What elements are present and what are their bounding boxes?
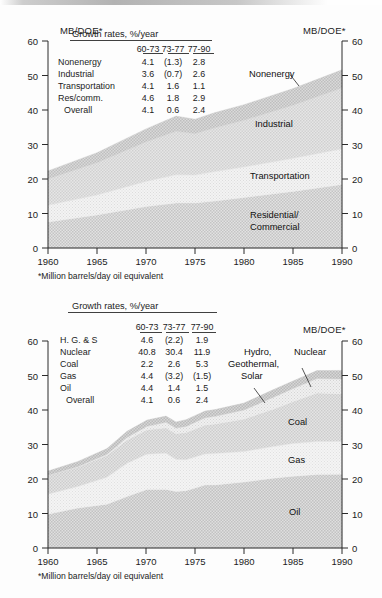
chart1-table-row-label-nonenergy: Nonenergy bbox=[58, 58, 101, 67]
chart1-band-label-industrial: Industrial bbox=[255, 120, 293, 129]
chart2-xtick-1980: 1980 bbox=[224, 557, 264, 567]
chart2-table-cell-coal-77-90: 5.3 bbox=[186, 360, 218, 369]
chart1-band-label-nonenergy: Nonenergy bbox=[249, 70, 294, 79]
chart2-xtick-1965: 1965 bbox=[77, 557, 117, 567]
chart1-ytick-right-10: 10 bbox=[352, 210, 363, 220]
chart2-left-ticks bbox=[42, 341, 48, 548]
chart2-ytick-left-20: 20 bbox=[10, 475, 38, 485]
chart1-ytick-right-20: 20 bbox=[352, 175, 363, 185]
chart2-ytick-left-0: 0 bbox=[10, 544, 38, 554]
chart1-footnote: *Million barrels/day oil equivalent bbox=[38, 272, 163, 281]
chart-energy-supply-by-source: MB/DOE* 0 10 20 30 40 50 60 0 10 20 30 4… bbox=[0, 290, 382, 598]
chart2-ytick-right-20: 20 bbox=[352, 475, 363, 485]
chart2-band-label-gas: Gas bbox=[288, 456, 305, 465]
chart2-table-cell-oil-77-90: 1.5 bbox=[186, 384, 218, 393]
chart1-band-label-residential: Residential/ bbox=[250, 211, 299, 220]
chart2-table-cell-overall-77-90: 2.4 bbox=[186, 396, 218, 405]
chart1-ytick-right-40: 40 bbox=[352, 106, 363, 116]
chart2-band-label-oil: Oil bbox=[289, 508, 300, 517]
chart2-ytick-right-50: 50 bbox=[352, 372, 363, 382]
chart1-table-cell-transportation-77-90: 1.1 bbox=[184, 82, 214, 91]
chart2-ytick-right-10: 10 bbox=[352, 510, 363, 520]
chart2-table-row-label-coal: Coal bbox=[60, 360, 78, 369]
chart1-table-cell-overall-77-90: 2.4 bbox=[184, 106, 214, 115]
chart1-ytick-right-50: 50 bbox=[352, 72, 363, 82]
chart2-ytick-right-60: 60 bbox=[352, 337, 363, 347]
chart1-table-cell-nonenergy-77-90: 2.8 bbox=[184, 58, 214, 67]
chart2-table-row-label-oil: Oil bbox=[60, 384, 71, 393]
chart2-xtick-1960: 1960 bbox=[28, 557, 68, 567]
chart2-table-row-label-gas: Gas bbox=[60, 372, 76, 381]
chart1-ytick-left-30: 30 bbox=[10, 141, 38, 151]
chart1-xtick-1965: 1965 bbox=[77, 257, 117, 267]
chart2-footnote: *Million barrels/day oil equivalent bbox=[38, 572, 163, 581]
figure-page: MB/DOE* MB/DOE* 0 10 20 30 40 50 60 0 10… bbox=[0, 0, 382, 598]
chart2-table-row-label-nuclear: Nuclear bbox=[60, 348, 91, 357]
chart1-xtick-1975: 1975 bbox=[175, 257, 215, 267]
chart2-ytick-left-40: 40 bbox=[10, 406, 38, 416]
chart1-table-row-label-industrial: Industrial bbox=[58, 70, 94, 79]
chart2-band-label-hydro: Hydro, bbox=[244, 348, 271, 357]
chart-energy-demand-by-sector: MB/DOE* MB/DOE* 0 10 20 30 40 50 60 0 10… bbox=[0, 0, 382, 298]
chart1-xtick-1990: 1990 bbox=[322, 257, 362, 267]
chart1-ytick-right-30: 30 bbox=[352, 141, 363, 151]
chart1-table-row-label-transportation: Transportation bbox=[58, 82, 115, 91]
chart2-table-row-label-hgs: H. G. & S bbox=[60, 336, 97, 345]
chart2-xtick-1990: 1990 bbox=[322, 557, 362, 567]
chart1-table-col-77-90: 77-90 bbox=[184, 45, 214, 54]
chart1-ytick-right-0: 0 bbox=[352, 244, 357, 254]
chart1-xtick-1960: 1960 bbox=[28, 257, 68, 267]
chart2-band-label-nuclear: Nuclear bbox=[294, 348, 326, 357]
chart1-band-label-commercial: Commercial bbox=[250, 223, 300, 232]
chart2-table-title: Growth rates, %/year bbox=[72, 302, 158, 311]
chart2-ytick-right-30: 30 bbox=[352, 441, 363, 451]
chart1-xtick-1970: 1970 bbox=[126, 257, 166, 267]
chart2-ytick-left-30: 30 bbox=[10, 441, 38, 451]
chart2-table-cell-nuclear-77-90: 11.9 bbox=[186, 348, 218, 357]
chart2-xtick-1970: 1970 bbox=[126, 557, 166, 567]
chart1-xtick-1980: 1980 bbox=[224, 257, 264, 267]
chart1-left-ticks bbox=[42, 41, 48, 248]
chart1-ytick-left-20: 20 bbox=[10, 175, 38, 185]
chart1-ytick-left-60: 60 bbox=[10, 37, 38, 47]
chart2-bottom-ticks bbox=[48, 548, 342, 554]
chart1-ytick-left-10: 10 bbox=[10, 210, 38, 220]
chart1-bottom-ticks bbox=[48, 248, 342, 254]
chart1-ytick-left-0: 0 bbox=[10, 244, 38, 254]
chart1-unit-label-right: MB/DOE* bbox=[303, 26, 346, 36]
chart2-xtick-1985: 1985 bbox=[273, 557, 313, 567]
chart2-unit-label-right: MB/DOE* bbox=[303, 325, 346, 335]
chart1-xtick-1985: 1985 bbox=[273, 257, 313, 267]
chart1-table-row-label-overall: Overall bbox=[64, 106, 92, 115]
chart1-table-cell-industrial-77-90: 2.6 bbox=[184, 70, 214, 79]
chart2-ytick-left-50: 50 bbox=[10, 372, 38, 382]
chart2-ytick-left-60: 60 bbox=[10, 337, 38, 347]
chart2-table-row-label-overall: Overall bbox=[66, 396, 94, 405]
chart1-band-label-transportation: Transportation bbox=[250, 172, 310, 181]
chart2-xtick-1975: 1975 bbox=[175, 557, 215, 567]
chart1-ytick-right-60: 60 bbox=[352, 37, 363, 47]
chart2-band-label-geothermal: Geothermal, bbox=[228, 360, 279, 369]
chart1-right-ticks bbox=[342, 41, 348, 248]
chart1-ytick-left-50: 50 bbox=[10, 72, 38, 82]
chart2-table-cell-hgs-77-90: 1.9 bbox=[186, 336, 218, 345]
chart1-table-title: Growth rates, %/year bbox=[72, 30, 158, 39]
chart2-band-label-solar: Solar bbox=[241, 372, 263, 381]
chart2-right-ticks bbox=[342, 341, 348, 548]
chart2-ytick-right-0: 0 bbox=[352, 544, 357, 554]
chart2-table-cell-gas-77-90: (1.5) bbox=[186, 372, 218, 381]
chart2-ytick-left-10: 10 bbox=[10, 510, 38, 520]
chart1-ytick-left-40: 40 bbox=[10, 106, 38, 116]
chart1-table-cell-res-comm-77-90: 2.9 bbox=[184, 94, 214, 103]
chart2-ytick-right-40: 40 bbox=[352, 406, 363, 416]
chart2-band-label-coal: Coal bbox=[288, 418, 307, 427]
chart2-table-col-77-90: 77-90 bbox=[186, 323, 218, 332]
chart1-table-row-label-res-comm: Res/comm. bbox=[58, 94, 103, 103]
